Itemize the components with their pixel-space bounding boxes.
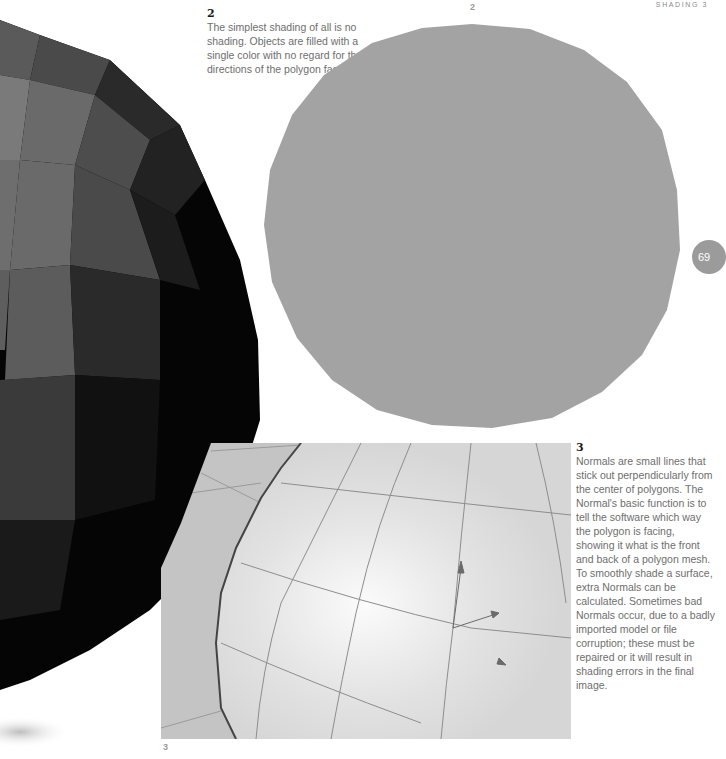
figure-3-label: 3 xyxy=(163,742,168,752)
caption-figure-3: 3 Normals are small lines that stick out… xyxy=(576,442,716,692)
caption-2-number: 2 xyxy=(207,8,377,20)
caption-3-number: 3 xyxy=(576,442,716,454)
flat-shaded-circle-image xyxy=(262,20,682,430)
figure-2-label: 2 xyxy=(470,2,475,12)
caption-3-text: Normals are small lines that stick out p… xyxy=(576,454,716,692)
normals-render-image xyxy=(161,443,571,739)
page-number-badge: 69 xyxy=(692,240,726,274)
flat-circle-graphic xyxy=(262,20,682,430)
normals-sphere-graphic xyxy=(161,443,571,739)
running-header: SHADING 3 xyxy=(656,1,708,8)
